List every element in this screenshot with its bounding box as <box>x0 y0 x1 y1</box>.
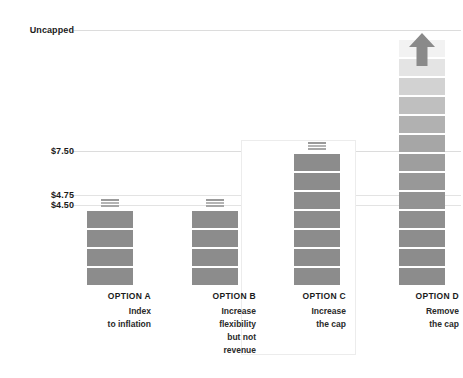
money-block <box>294 192 340 209</box>
option-a-title: OPTION A <box>55 290 151 303</box>
money-block <box>399 268 445 285</box>
gridline-uncapped <box>72 30 461 31</box>
axis-label-uncapped: Uncapped <box>30 25 74 35</box>
option-a-line-2: to inflation <box>55 318 151 331</box>
option-c-line-1: Increase <box>248 305 346 318</box>
caption-option-b: OPTION B Increase flexibility but not re… <box>160 290 256 357</box>
option-c-line-2: the cap <box>248 318 346 331</box>
option-d-line-2: the cap <box>363 318 459 331</box>
money-block <box>192 230 238 247</box>
money-block <box>87 211 133 228</box>
money-block <box>294 249 340 266</box>
option-b-line-2: flexibility <box>160 318 256 331</box>
option-c-title: OPTION C <box>248 290 346 303</box>
cap-options-chart: Uncapped $7.50 $4.75 $4.50 <box>0 0 463 378</box>
axis-label-750: $7.50 <box>51 146 74 156</box>
money-block <box>399 116 445 133</box>
bar-column-option-c[interactable] <box>293 139 341 285</box>
caption-option-a: OPTION A Index to inflation <box>55 290 151 331</box>
axis-label-450: $4.50 <box>51 200 74 210</box>
money-block <box>294 211 340 228</box>
coin-stack-cap-icon <box>308 142 326 150</box>
coin-stack-cap-icon <box>101 199 119 207</box>
money-block <box>399 249 445 266</box>
option-d-line-1: Remove <box>363 305 459 318</box>
bar-column-option-d[interactable] <box>398 38 446 285</box>
money-block <box>87 268 133 285</box>
money-block <box>192 249 238 266</box>
option-b-line-1: Increase <box>160 305 256 318</box>
option-b-line-3: but not <box>160 331 256 344</box>
money-block <box>399 211 445 228</box>
caption-option-d: OPTION D Remove the cap <box>363 290 459 331</box>
option-d-title: OPTION D <box>363 290 459 303</box>
option-b-title: OPTION B <box>160 290 256 303</box>
money-block <box>192 211 238 228</box>
money-block <box>399 135 445 152</box>
money-block <box>399 97 445 114</box>
money-block <box>399 230 445 247</box>
money-block <box>399 192 445 209</box>
money-block <box>399 154 445 171</box>
money-block <box>399 173 445 190</box>
option-a-line-1: Index <box>55 305 151 318</box>
money-block <box>399 78 445 95</box>
money-block <box>87 230 133 247</box>
coin-stack-cap-icon <box>206 199 224 207</box>
money-block <box>192 268 238 285</box>
money-block <box>87 249 133 266</box>
bar-column-option-b[interactable] <box>191 196 239 285</box>
money-block <box>294 154 340 171</box>
money-block <box>294 268 340 285</box>
upward-arrow-icon <box>409 33 435 66</box>
option-b-line-4: revenue <box>160 344 256 357</box>
money-block <box>294 230 340 247</box>
caption-option-c: OPTION C Increase the cap <box>248 290 346 331</box>
bar-column-option-a[interactable] <box>86 196 134 285</box>
axis-label-475: $4.75 <box>51 190 74 200</box>
money-block <box>294 173 340 190</box>
